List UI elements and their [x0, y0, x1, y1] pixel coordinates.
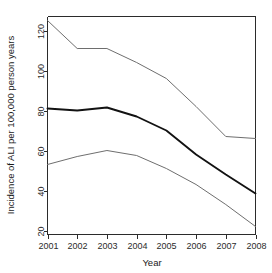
series-path [48, 151, 256, 227]
y-tick-label: 80 [36, 106, 46, 116]
y-tick-label: 40 [36, 186, 46, 196]
x-tick-label: 2002 [67, 241, 87, 251]
x-tick-label: 2001 [38, 241, 58, 251]
x-tick-label: 2006 [186, 241, 206, 251]
y-axis-title: Incidence of ALI per 100,000 person year… [5, 35, 16, 214]
x-tick-label: 2003 [97, 241, 117, 251]
series-layer [48, 21, 256, 227]
y-tick-label: 100 [36, 64, 46, 79]
series-path [48, 21, 256, 139]
y-tick-label: 20 [36, 226, 46, 236]
x-tick-label: 2004 [127, 241, 147, 251]
series-path [48, 108, 256, 194]
x-axis-ticks: 20012002200320042005200620072008 [38, 235, 266, 251]
x-tick-label: 2008 [246, 241, 266, 251]
x-tick-label: 2007 [216, 241, 236, 251]
y-tick-label: 120 [36, 24, 46, 39]
x-axis-title: Year [142, 257, 161, 268]
x-tick-label: 2005 [156, 241, 176, 251]
line-chart: 20406080100120 2001200220032004200520062… [0, 0, 272, 273]
y-tick-label: 60 [36, 146, 46, 156]
y-axis-ticks: 20406080100120 [36, 24, 48, 237]
chart-figure: 20406080100120 2001200220032004200520062… [0, 0, 272, 273]
